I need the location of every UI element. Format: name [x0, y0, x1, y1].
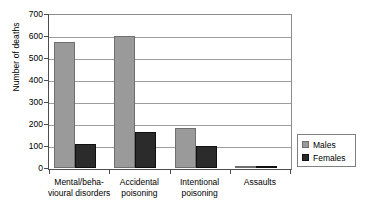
bar-males-1: [114, 36, 135, 168]
x-axis-tick: [49, 169, 50, 174]
y-axis-tick-label: 700: [3, 9, 43, 19]
male-swatch-icon: [302, 141, 309, 148]
legend: MalesFemales: [297, 134, 356, 167]
y-axis-tick-label: 100: [3, 141, 43, 151]
y-axis-tick-label: 200: [3, 119, 43, 129]
y-axis-tick-label: 0: [3, 163, 43, 173]
bar-females-0: [75, 144, 96, 168]
legend-item-label: Males: [313, 140, 336, 150]
x-axis-tick: [290, 169, 291, 174]
bar-females-2: [196, 146, 217, 168]
y-axis-tick-label: 300: [3, 97, 43, 107]
legend-item[interactable]: Males: [302, 138, 355, 151]
bar-males-3: [235, 166, 256, 168]
bar-chart: Number of deaths 0100200300400500600700 …: [0, 0, 365, 213]
y-axis-tick-label: 500: [3, 53, 43, 63]
legend-item-label: Females: [313, 153, 346, 163]
bar-males-0: [54, 42, 75, 169]
female-swatch-icon: [302, 154, 309, 161]
bar-females-1: [135, 132, 156, 168]
x-axis-tick: [109, 169, 110, 174]
bar-males-2: [175, 128, 196, 168]
y-axis-tick-label: 400: [3, 75, 43, 85]
y-axis-tick-label: 600: [3, 31, 43, 41]
x-axis-tick: [170, 169, 171, 174]
legend-item[interactable]: Females: [302, 151, 355, 164]
x-axis-tick: [230, 169, 231, 174]
bars-layer: [49, 14, 290, 168]
bar-females-3: [256, 166, 277, 168]
x-axis-tick-label: Assaults: [215, 177, 305, 188]
